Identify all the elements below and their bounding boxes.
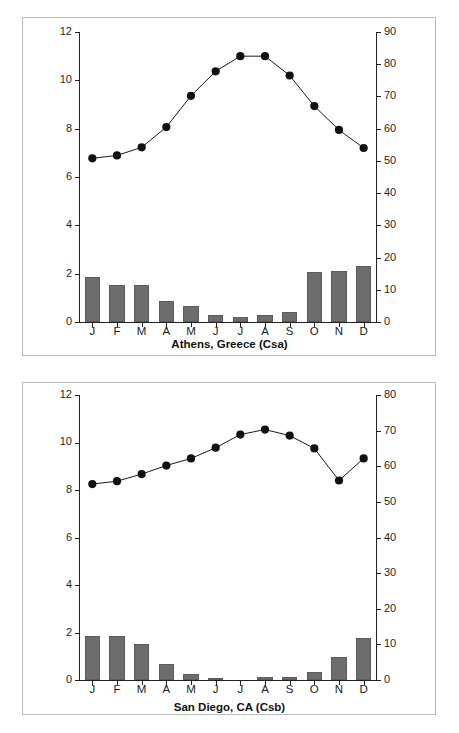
x-axis-tick	[290, 680, 291, 685]
temperature-marker	[187, 454, 195, 462]
y-left-tick-label: 4	[66, 579, 72, 590]
y-left-tick	[75, 395, 80, 396]
y-right-tick	[376, 466, 381, 467]
x-axis-tick	[92, 322, 93, 327]
y-right-tick	[376, 64, 381, 65]
temperature-marker	[212, 444, 220, 452]
temperature-marker	[310, 444, 318, 452]
x-axis-tick	[142, 322, 143, 327]
temperature-marker	[187, 92, 195, 100]
temperature-marker	[88, 480, 96, 488]
y-left-tick	[75, 274, 80, 275]
temperature-marker	[162, 461, 170, 469]
chart-caption-athens: Athens, Greece (Csa)	[0, 338, 459, 350]
y-right-tick-label: 40	[384, 187, 396, 198]
y-right-tick-label: 70	[384, 90, 396, 101]
y-right-tick	[376, 502, 381, 503]
temperature-marker	[360, 454, 368, 462]
y-left-tick-label: 12	[60, 389, 72, 400]
y-left-tick	[75, 680, 80, 681]
y-left-tick	[75, 585, 80, 586]
y-left-tick-label: 0	[66, 674, 72, 685]
y-left-tick-label: 2	[66, 627, 72, 638]
y-right-tick	[376, 680, 381, 681]
y-right-tick-label: 10	[384, 638, 396, 649]
x-axis-tick	[240, 322, 241, 327]
x-axis-tick	[314, 680, 315, 685]
y-left-tick	[75, 177, 80, 178]
y-right-tick-label: 20	[384, 252, 396, 263]
y-right-tick-label: 90	[384, 26, 396, 37]
x-axis-tick	[191, 322, 192, 327]
chart-panel-sandiego: Precipitation (in) Temperature °F JFMAMJ…	[22, 382, 436, 715]
y-left-tick	[75, 322, 80, 323]
y-right-tick-label: 30	[384, 219, 396, 230]
x-axis-tick	[117, 680, 118, 685]
y-right-tick-label: 0	[384, 674, 390, 685]
y-right-tick	[376, 290, 381, 291]
y-left-tick-label: 8	[66, 123, 72, 134]
y-left-tick-label: 6	[66, 532, 72, 543]
x-axis-tick	[92, 680, 93, 685]
x-axis-tick	[314, 322, 315, 327]
y-left-tick	[75, 443, 80, 444]
temperature-marker	[113, 151, 121, 159]
x-axis-tick	[240, 680, 241, 685]
x-axis-tick	[142, 680, 143, 685]
y-left-tick-label: 6	[66, 171, 72, 182]
y-right-tick	[376, 431, 381, 432]
x-axis-tick	[166, 680, 167, 685]
y-left-tick	[75, 633, 80, 634]
temperature-polyline	[92, 56, 363, 158]
y-right-tick	[376, 609, 381, 610]
y-right-tick	[376, 395, 381, 396]
y-left-tick-label: 10	[60, 74, 72, 85]
temperature-marker	[335, 126, 343, 134]
temperature-polyline	[92, 430, 363, 485]
y-right-tick-label: 80	[384, 389, 396, 400]
x-axis-tick	[364, 322, 365, 327]
y-left-tick-label: 2	[66, 268, 72, 279]
temperature-marker	[138, 143, 146, 151]
x-axis-tick	[191, 680, 192, 685]
y-right-tick	[376, 644, 381, 645]
plot-area-sandiego: JFMAMJJASOND 02468101201020304050607080	[79, 395, 377, 681]
x-axis-tick	[216, 680, 217, 685]
x-axis-tick	[364, 680, 365, 685]
y-left-tick	[75, 80, 80, 81]
y-right-tick	[376, 322, 381, 323]
x-axis-tick	[117, 322, 118, 327]
y-right-tick	[376, 193, 381, 194]
y-left-tick	[75, 225, 80, 226]
y-right-tick-label: 30	[384, 567, 396, 578]
y-right-tick	[376, 258, 381, 259]
y-right-tick-label: 50	[384, 496, 396, 507]
y-right-tick-label: 60	[384, 123, 396, 134]
chart-caption-sandiego: San Diego, CA (Csb)	[0, 701, 459, 713]
y-right-tick-label: 0	[384, 316, 390, 327]
y-right-tick-label: 60	[384, 460, 396, 471]
temperature-marker	[138, 470, 146, 478]
y-left-tick	[75, 538, 80, 539]
y-left-tick-label: 10	[60, 436, 72, 447]
temperature-marker	[335, 476, 343, 484]
temperature-marker	[360, 144, 368, 152]
x-axis-tick	[339, 322, 340, 327]
temperature-marker	[236, 430, 244, 438]
y-left-tick-label: 0	[66, 316, 72, 327]
y-right-tick-label: 80	[384, 58, 396, 69]
temperature-marker	[310, 102, 318, 110]
temperature-marker	[261, 52, 269, 60]
temperature-marker	[162, 123, 170, 131]
y-right-tick-label: 10	[384, 284, 396, 295]
x-axis-month-labels-sandiego: JFMAMJJASOND	[80, 680, 376, 700]
temperature-marker	[236, 52, 244, 60]
y-right-tick	[376, 129, 381, 130]
y-left-tick-label: 12	[60, 26, 72, 37]
y-right-tick-label: 50	[384, 155, 396, 166]
temperature-marker	[113, 477, 121, 485]
temperature-marker	[286, 432, 294, 440]
temperature-marker	[286, 71, 294, 79]
y-right-tick	[376, 538, 381, 539]
y-left-tick-label: 4	[66, 219, 72, 230]
